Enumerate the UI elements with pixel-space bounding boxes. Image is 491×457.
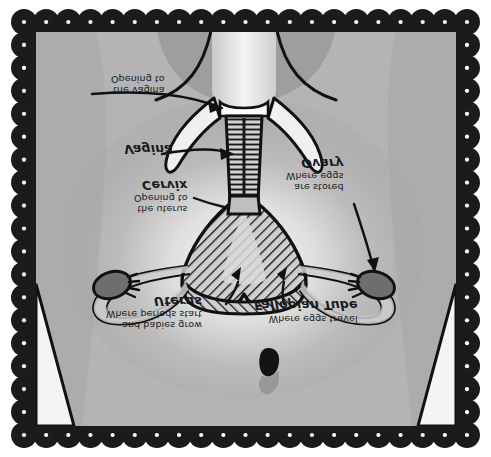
scallop-dot bbox=[22, 181, 26, 185]
scallop-dot bbox=[155, 20, 159, 24]
scallop-dot bbox=[66, 20, 70, 24]
label-vagina-title: Vagina bbox=[124, 142, 173, 156]
scallop-dot bbox=[22, 135, 26, 139]
scallop-dot bbox=[22, 364, 26, 368]
scallop-dot bbox=[376, 433, 380, 437]
scallop-dot bbox=[243, 20, 247, 24]
label-fallopian-title: Fallopian Tube bbox=[254, 298, 358, 312]
cervix bbox=[228, 196, 260, 214]
scallop-dot bbox=[111, 20, 115, 24]
scallop-dot bbox=[354, 433, 358, 437]
scallop-dot bbox=[111, 433, 115, 437]
diagram-canvas: the vagina Opening to Vagina the uterus … bbox=[36, 32, 456, 426]
scallop-dot bbox=[22, 112, 26, 116]
scallop-dot bbox=[465, 433, 469, 437]
label-cervix-line1: Opening to bbox=[134, 193, 188, 204]
scallop-dot bbox=[465, 249, 469, 253]
scallop-dot bbox=[22, 226, 26, 230]
scallop-dot bbox=[465, 20, 469, 24]
label-vagina[interactable]: Vagina bbox=[124, 142, 173, 156]
scallop-dot bbox=[421, 433, 425, 437]
scallop-dot bbox=[354, 20, 358, 24]
illustration-page: the vagina Opening to Vagina the uterus … bbox=[0, 0, 491, 457]
scallop-dot bbox=[288, 20, 292, 24]
scallop-dot bbox=[133, 20, 137, 24]
scallop-dot bbox=[465, 272, 469, 276]
scallop-dot bbox=[22, 433, 26, 437]
label-fallopian-tube[interactable]: Where eggs travel Fallopian Tube bbox=[254, 298, 358, 324]
pubic-mound bbox=[212, 32, 276, 114]
label-uterus-title: Uterus bbox=[106, 294, 202, 308]
scallop-dot bbox=[465, 203, 469, 207]
scallop-dot bbox=[221, 433, 225, 437]
scallop-dot bbox=[22, 295, 26, 299]
scallop-dot bbox=[44, 20, 48, 24]
scallop-dot bbox=[22, 158, 26, 162]
scallop-dot bbox=[310, 20, 314, 24]
label-ovary-line1: Where eggs bbox=[286, 171, 344, 182]
scallop-dot bbox=[465, 112, 469, 116]
scallop-dot bbox=[177, 433, 181, 437]
label-ovary-title: Ovary bbox=[286, 156, 344, 170]
label-uterus-line2: and babies grow bbox=[106, 320, 202, 331]
scallop-dot bbox=[443, 20, 447, 24]
scallop-dot bbox=[465, 135, 469, 139]
scallop-dot bbox=[332, 433, 336, 437]
label-opening-to-the-vagina[interactable]: the vagina Opening to bbox=[111, 74, 165, 95]
scallop-dot bbox=[199, 20, 203, 24]
scallop-dot bbox=[22, 43, 26, 47]
scallop-dot bbox=[465, 226, 469, 230]
scallop-dot bbox=[465, 89, 469, 93]
scallop-dot bbox=[332, 20, 336, 24]
scallop-dot bbox=[22, 249, 26, 253]
scallop-dot bbox=[266, 433, 270, 437]
label-opening-vagina-line2: the vagina bbox=[111, 85, 165, 96]
scallop-dot bbox=[443, 433, 447, 437]
label-opening-vagina-line1: Opening to bbox=[111, 74, 165, 85]
scallop-dot bbox=[288, 433, 292, 437]
scallop-dot bbox=[177, 20, 181, 24]
scallop-dot bbox=[310, 433, 314, 437]
scallop-dot bbox=[398, 433, 402, 437]
scallop-dot bbox=[465, 387, 469, 391]
scallop-dot bbox=[22, 410, 26, 414]
scallop-dot bbox=[465, 66, 469, 70]
scallop-dot bbox=[199, 433, 203, 437]
scallop-dot bbox=[22, 341, 26, 345]
scallop-dot bbox=[22, 89, 26, 93]
label-cervix-title: Cervix bbox=[134, 178, 188, 192]
scallop-dot bbox=[421, 20, 425, 24]
label-ovary-line2: are stored bbox=[286, 182, 344, 193]
label-uterus[interactable]: and babies grow Where periods start Uter… bbox=[106, 294, 202, 330]
scallop-dot bbox=[465, 295, 469, 299]
scallop-dot bbox=[22, 387, 26, 391]
scallop-dot bbox=[155, 433, 159, 437]
scallop-dot bbox=[266, 20, 270, 24]
scallop-dot bbox=[465, 158, 469, 162]
scallop-dot bbox=[22, 203, 26, 207]
scallop-dot bbox=[88, 20, 92, 24]
scallop-dot bbox=[22, 318, 26, 322]
scallop-dot bbox=[22, 272, 26, 276]
label-ovary[interactable]: are stored Where eggs Ovary bbox=[286, 156, 344, 192]
scallop-dot bbox=[133, 433, 137, 437]
scallop-dot bbox=[465, 43, 469, 47]
scallop-dot bbox=[44, 433, 48, 437]
scallop-dot bbox=[465, 341, 469, 345]
label-fallopian-line1: Where eggs travel bbox=[254, 313, 358, 324]
scallop-dot bbox=[22, 20, 26, 24]
label-cervix[interactable]: the uterus Opening to Cervix bbox=[134, 178, 188, 214]
scallop-dot bbox=[465, 318, 469, 322]
label-cervix-line2: the uterus bbox=[134, 204, 188, 215]
scallop-dot bbox=[376, 20, 380, 24]
label-uterus-line1: Where periods start bbox=[106, 309, 202, 320]
scallop-dot bbox=[465, 181, 469, 185]
scallop-dot bbox=[243, 433, 247, 437]
scallop-dot bbox=[465, 410, 469, 414]
scallop-dot bbox=[465, 364, 469, 368]
scallop-dot bbox=[22, 66, 26, 70]
scallop-dot bbox=[66, 433, 70, 437]
scallop-dot bbox=[221, 20, 225, 24]
scallop-dot bbox=[88, 433, 92, 437]
scallop-dot bbox=[398, 20, 402, 24]
